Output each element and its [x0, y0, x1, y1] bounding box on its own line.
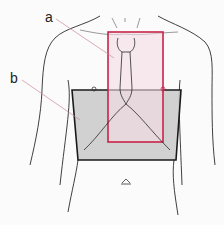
- leader-line-b: [22, 80, 80, 120]
- left-waist: [68, 160, 78, 212]
- left-arm-inner: [60, 80, 69, 185]
- neck-lines: [112, 18, 140, 28]
- torso-illustration: [0, 0, 224, 225]
- label-b: b: [10, 71, 18, 85]
- region-a: [108, 32, 163, 142]
- label-a: a: [45, 10, 53, 24]
- anatomical-torso-diagram: a b: [0, 0, 224, 225]
- belly-button-icon: [121, 179, 131, 184]
- right-waist: [173, 160, 178, 215]
- leader-line-a: [56, 19, 114, 58]
